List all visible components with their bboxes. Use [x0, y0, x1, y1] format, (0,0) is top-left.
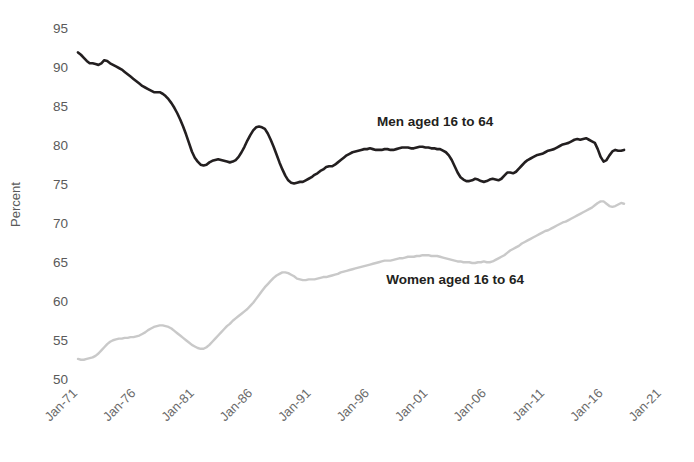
labour-force-participation-line-chart: 50556065707580859095 Jan-71Jan-76Jan-81J… [0, 0, 694, 462]
x-axis-tick-label-Jan-71: Jan-71 [41, 386, 80, 425]
y-axis: 50556065707580859095 [53, 21, 68, 387]
series-annotation-men: Men aged 16 to 64 [377, 114, 494, 129]
x-axis-tick-label-Jan-86: Jan-86 [217, 386, 256, 425]
y-axis-tick-label-85: 85 [53, 99, 68, 114]
x-axis-tick-label-Jan-96: Jan-96 [333, 386, 372, 425]
y-axis-tick-label-80: 80 [53, 138, 68, 153]
x-axis-tick-label-Jan-21: Jan-21 [625, 386, 664, 425]
x-axis-tick-label-Jan-01: Jan-01 [392, 386, 431, 425]
axis-titles: Percent [8, 182, 23, 227]
chart-container: 50556065707580859095 Jan-71Jan-76Jan-81J… [0, 0, 694, 462]
series-line-women [78, 201, 624, 359]
series-annotations: Men aged 16 to 64Women aged 16 to 64 [377, 114, 525, 287]
series-annotation-women: Women aged 16 to 64 [386, 272, 524, 287]
y-axis-tick-label-65: 65 [53, 255, 68, 270]
x-axis-tick-label-Jan-81: Jan-81 [158, 386, 197, 425]
x-axis-tick-label-Jan-06: Jan-06 [450, 386, 489, 425]
y-axis-tick-label-55: 55 [53, 333, 68, 348]
series-lines [78, 52, 624, 359]
y-axis-tick-label-75: 75 [53, 177, 68, 192]
x-axis-tick-label-Jan-16: Jan-16 [567, 386, 606, 425]
y-axis-tick-label-95: 95 [53, 21, 68, 36]
y-axis-tick-label-70: 70 [53, 216, 68, 231]
series-line-men [78, 52, 624, 183]
x-axis: Jan-71Jan-76Jan-81Jan-86Jan-91Jan-96Jan-… [41, 386, 664, 425]
y-axis-tick-label-90: 90 [53, 60, 68, 75]
y-axis-tick-label-60: 60 [53, 294, 68, 309]
y-axis-title: Percent [8, 182, 23, 227]
x-axis-tick-label-Jan-11: Jan-11 [509, 386, 547, 424]
y-axis-tick-label-50: 50 [53, 372, 68, 387]
x-axis-tick-label-Jan-76: Jan-76 [100, 386, 139, 425]
x-axis-tick-label-Jan-91: Jan-91 [275, 386, 314, 425]
